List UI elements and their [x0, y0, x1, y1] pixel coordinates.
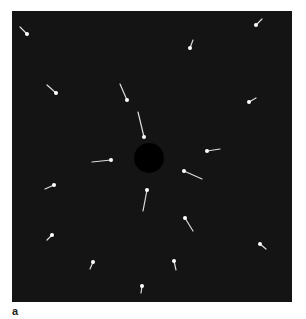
marker-head [258, 242, 262, 246]
marker-head [247, 100, 251, 104]
center-hole [134, 143, 164, 173]
marker-head [142, 135, 146, 139]
marker-head [52, 183, 56, 187]
marker-head [109, 158, 113, 162]
marker-head [254, 23, 258, 27]
figure-panel [0, 0, 306, 319]
marker-head [182, 169, 186, 173]
marker-head [50, 233, 54, 237]
marker-head [205, 149, 209, 153]
panel-label: a [12, 305, 18, 317]
marker-head [125, 98, 129, 102]
marker-head [188, 46, 192, 50]
marker-head [140, 284, 144, 288]
marker-head [183, 216, 187, 220]
marker-head [54, 91, 58, 95]
marker-head [145, 188, 149, 192]
marker-head [25, 32, 29, 36]
marker-head [91, 260, 95, 264]
marker-head [172, 259, 176, 263]
